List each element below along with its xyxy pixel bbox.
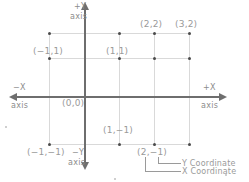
x-axis-line bbox=[16, 96, 220, 98]
legend-leader-x-horizontal bbox=[145, 171, 181, 172]
point-neg1-2 bbox=[48, 32, 51, 35]
point-3-neg1 bbox=[188, 143, 191, 146]
point-1-neg1 bbox=[118, 143, 121, 146]
y-negative-axis-label-line2: axis bbox=[68, 158, 85, 167]
x-positive-axis-label-line1: +X bbox=[203, 83, 216, 92]
x-positive-axis-label-line2: axis bbox=[201, 101, 218, 110]
point-label-1-1: (1,1) bbox=[106, 46, 128, 56]
y-positive-axis-label-line2: axis bbox=[70, 12, 87, 21]
x-negative-axis-label-line2: axis bbox=[11, 101, 28, 110]
point-2-2 bbox=[153, 32, 156, 35]
point-1-2 bbox=[118, 32, 121, 35]
point-label-neg1-1: (−1,1) bbox=[33, 46, 63, 56]
origin-label: (0,0) bbox=[62, 98, 84, 108]
point-neg1-neg1 bbox=[48, 143, 51, 146]
x-axis-negative-arrow-icon bbox=[9, 93, 17, 101]
point-2-neg1 bbox=[153, 143, 156, 146]
point-3-2 bbox=[188, 32, 191, 35]
legend-label-x-coordinate: X Coordinate bbox=[182, 167, 236, 176]
legend-leader-y-horizontal bbox=[158, 163, 181, 164]
legend-leader-x-vertical bbox=[145, 157, 146, 172]
point-2-1 bbox=[153, 57, 156, 60]
y-axis-line bbox=[84, 9, 86, 164]
point-label-neg1-neg1: (−1,−1) bbox=[27, 147, 65, 157]
artifact-speck-right bbox=[225, 174, 227, 176]
point-neg1-1 bbox=[48, 57, 51, 60]
point-1-1 bbox=[118, 57, 121, 60]
gridline-vertical-x-2 bbox=[154, 33, 155, 145]
point-label-2-2: (2,2) bbox=[140, 19, 162, 29]
point-label-2-neg1: (2,−1) bbox=[137, 147, 167, 157]
x-axis-positive-arrow-icon bbox=[219, 93, 227, 101]
artifact-speck-bottom bbox=[114, 178, 116, 180]
point-3-1 bbox=[188, 57, 191, 60]
gridline-vertical-x-3 bbox=[189, 33, 190, 145]
x-negative-axis-label-line1: −X bbox=[13, 83, 26, 92]
y-positive-axis-label-line1: +Y bbox=[74, 2, 86, 11]
artifact-speck-left bbox=[5, 126, 7, 128]
point-label-3-2: (3,2) bbox=[175, 19, 197, 29]
point-label-1-neg1: (1,−1) bbox=[103, 125, 133, 135]
coordinate-diagram: +Y axis −Y axis −X axis +X axis (0,0) (2… bbox=[0, 0, 249, 182]
y-negative-axis-label-line1: −Y bbox=[72, 148, 84, 157]
